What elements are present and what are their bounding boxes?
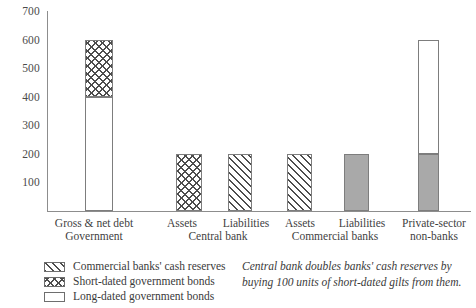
legend-label-cash-reserves: Commercial banks' cash reserves (73, 260, 225, 273)
chart-annotation: Central bank doubles banks' cash reserve… (242, 259, 474, 290)
legend-label-long-dated-bonds: Long-dated government bonds (73, 290, 214, 303)
y-tick-500: 500 (22, 62, 47, 74)
category-label-comm-liabilities: Liabilities (326, 217, 398, 230)
segment-long-dated-gov-bonds (85, 97, 113, 211)
annotation-line-1: Central bank doubles banks' cash reserve… (242, 259, 474, 275)
category-label-private-sector: Private-sector (392, 217, 476, 230)
segment-short-dated-gov-bonds (85, 40, 113, 97)
y-tick-400: 400 (22, 91, 47, 103)
segment-deposits (418, 154, 439, 211)
bar-commercial-banks-liabilities (344, 154, 369, 211)
segment-commercial-bank-cash-reserves (287, 154, 312, 211)
group-label-central-bank: Central bank (154, 230, 282, 243)
y-tick-600: 600 (22, 34, 47, 46)
legend-item-cash-reserves: Commercial banks' cash reserves (44, 259, 225, 274)
bar-commercial-banks-assets (287, 154, 312, 211)
group-label-commercial-banks: Commercial banks (272, 230, 398, 243)
group-label-non-banks: non-banks (392, 230, 476, 243)
category-label-cb-assets: Assets (154, 217, 210, 230)
category-label-gross-net-debt: Gross & net debt (40, 217, 148, 230)
legend-item-long-dated-bonds: Long-dated government bonds (44, 289, 225, 304)
segment-commercial-bank-cash-reserves (228, 154, 252, 211)
annotation-line-2: buying 100 units of short-dated gilts fr… (242, 275, 474, 291)
bar-government-debt (85, 40, 113, 211)
y-tick-200: 200 (22, 148, 47, 160)
segment-short-dated-gov-bonds (176, 154, 202, 211)
legend-swatch-cross-hatch-icon (44, 277, 65, 287)
y-tick-100: 100 (22, 176, 47, 188)
chart-figure: 700 600 500 400 300 200 100 (0, 0, 476, 308)
bar-central-bank-assets (176, 154, 202, 211)
category-label-comm-assets: Assets (272, 217, 328, 230)
legend-item-short-dated-bonds: Short-dated government bonds (44, 274, 225, 289)
plot-area: 700 600 500 400 300 200 100 (47, 11, 471, 211)
legend-swatch-diagonal-hatch-icon (44, 262, 65, 272)
bar-central-bank-liabilities (228, 154, 252, 211)
chart-legend: Commercial banks' cash reserves Short-da… (44, 259, 225, 304)
legend-label-short-dated-bonds: Short-dated government bonds (73, 275, 215, 288)
legend-swatch-white-icon (44, 292, 65, 302)
segment-deposits (344, 154, 369, 211)
group-label-government: Government (40, 230, 148, 243)
y-tick-700: 700 (22, 5, 47, 17)
y-tick-300: 300 (22, 119, 47, 131)
bar-private-sector-non-banks (418, 40, 439, 211)
segment-long-dated-gov-bonds (418, 40, 439, 154)
x-axis-line (47, 211, 471, 212)
